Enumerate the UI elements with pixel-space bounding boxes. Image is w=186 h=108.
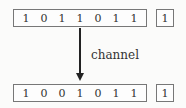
transmitted-bits-box: 1 0 1 1 0 1 1	[13, 9, 147, 27]
parity-bit: 1	[160, 87, 170, 100]
bit: 1	[127, 87, 141, 100]
bit: 0	[37, 12, 51, 25]
bit: 1	[73, 87, 87, 100]
bit: 1	[19, 12, 33, 25]
arrow-down-icon	[76, 73, 84, 81]
bit: 1	[109, 87, 123, 100]
bit: 0	[91, 12, 105, 25]
bit: 0	[91, 87, 105, 100]
bit: 1	[73, 12, 87, 25]
channel-arrow-line	[79, 28, 81, 74]
received-bits-box: 1 0 0 1 0 1 1	[13, 84, 147, 102]
bit: 0	[55, 87, 69, 100]
bit: 1	[127, 12, 141, 25]
channel-label: channel	[91, 48, 139, 62]
parity-bit: 1	[160, 12, 170, 25]
bit: 0	[37, 87, 51, 100]
received-parity-box: 1	[156, 84, 174, 102]
bit: 1	[109, 12, 123, 25]
bit: 1	[55, 12, 69, 25]
transmitted-parity-box: 1	[156, 9, 174, 27]
bit: 1	[19, 87, 33, 100]
